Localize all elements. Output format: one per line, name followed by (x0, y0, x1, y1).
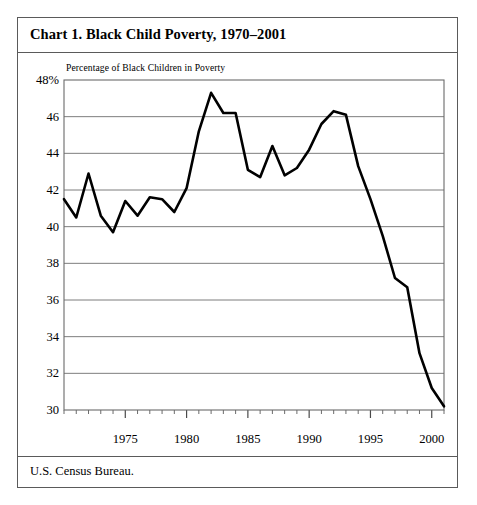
x-axis-tick-label: 1975 (113, 432, 138, 447)
x-axis-tick-label: 1990 (297, 432, 322, 447)
title-divider (18, 52, 457, 53)
gridlines (64, 117, 444, 374)
plot-border (64, 80, 444, 410)
y-axis-tick-label: 44 (46, 146, 59, 161)
poverty-rate-line (64, 93, 444, 407)
y-axis-tick-label: 40 (46, 219, 59, 234)
x-axis-tick-label: 1995 (358, 432, 383, 447)
x-axis-tick-labels: 197519801985199019952000 (64, 432, 444, 452)
source-note: U.S. Census Bureau. (30, 464, 134, 479)
page-title: Chart 1. Black Child Poverty, 1970–2001 (30, 26, 286, 43)
y-axis-tick-label: 48% (36, 73, 59, 88)
y-axis-tick-label: 38 (46, 256, 59, 271)
x-axis-major-ticks (125, 410, 431, 418)
y-axis-tick-label: 34 (46, 329, 59, 344)
y-axis-tick-label: 30 (46, 403, 59, 418)
x-axis-minor-ticks (64, 410, 444, 414)
y-axis-tick-label: 32 (46, 366, 59, 381)
y-axis-tick-label: 42 (46, 183, 59, 198)
y-axis-tick-label: 46 (46, 109, 59, 124)
figure-frame: Chart 1. Black Child Poverty, 1970–2001 … (17, 17, 458, 488)
line-chart-svg (64, 80, 444, 410)
x-axis-tick-label: 1980 (174, 432, 199, 447)
chart-page: Chart 1. Black Child Poverty, 1970–2001 … (0, 0, 477, 505)
x-axis-tick-label: 2000 (419, 432, 444, 447)
y-axis-tick-labels: 48%464442403836343230 (18, 80, 59, 410)
plot-area (64, 80, 444, 410)
x-axis-tick-label: 1985 (235, 432, 260, 447)
source-divider (18, 456, 457, 457)
y-axis-tick-label: 36 (46, 293, 59, 308)
y-axis-caption: Percentage of Black Children in Poverty (66, 62, 225, 73)
